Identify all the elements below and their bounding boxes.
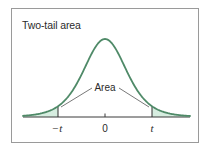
area-annotation: Area <box>93 82 116 93</box>
zero-tick-label: 0 <box>102 123 108 134</box>
pos-t-tick-label: t <box>150 122 153 134</box>
figure-title: Two-tail area <box>22 19 81 31</box>
neg-t-tick-label: −t <box>52 122 62 134</box>
two-tail-area-figure: Two-tail area Area −t 0 t <box>0 0 209 150</box>
